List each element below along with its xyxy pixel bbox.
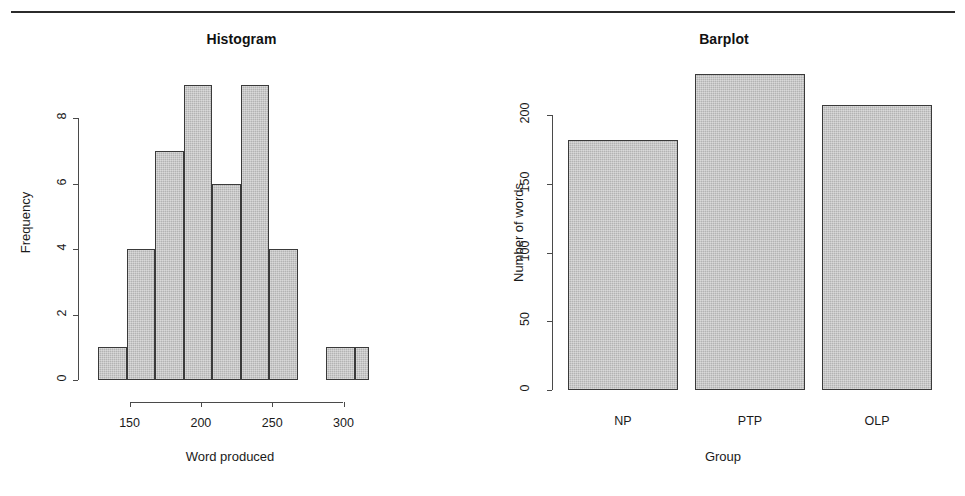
histogram-x-tick [344, 402, 345, 407]
histogram-bar [212, 184, 241, 381]
histogram-y-tick [73, 118, 78, 119]
histogram-x-axis-line [130, 402, 344, 403]
barplot-y-tick [547, 321, 552, 322]
barplot-y-tick [547, 390, 552, 391]
histogram-x-tick [272, 402, 273, 407]
histogram-x-tick [201, 402, 202, 407]
barplot-bar [695, 74, 805, 390]
histogram-bar [127, 249, 156, 380]
barplot-y-tick-label: 200 [518, 91, 532, 135]
histogram-y-tick [73, 315, 78, 316]
histogram-bar [155, 151, 184, 380]
barplot-x-tick-label: OLP [837, 414, 917, 428]
histogram-bar [269, 249, 298, 380]
barplot-y-axis-line [552, 115, 553, 390]
figure-page: Histogram 02468150200250300 Frequency Wo… [0, 0, 965, 496]
histogram-panel: Histogram 02468150200250300 Frequency Wo… [0, 0, 483, 496]
histogram-x-tick-label: 300 [319, 416, 369, 430]
histogram-x-tick [130, 402, 131, 407]
barplot-x-tick-label: NP [583, 414, 663, 428]
histogram-y-tick [73, 380, 78, 381]
barplot-title: Barplot [483, 31, 965, 47]
histogram-y-tick [73, 249, 78, 250]
histogram-y-tick-label: 8 [55, 99, 69, 133]
barplot-y-tick-label: 0 [518, 366, 532, 410]
barplot-bar [568, 140, 678, 390]
barplot-x-tick-label: PTP [710, 414, 790, 428]
histogram-bar [98, 347, 127, 380]
barplot-y-axis-title: Number of words [511, 163, 526, 303]
histogram-y-axis-title: Frequency [18, 163, 33, 283]
histogram-bar [184, 85, 213, 380]
barplot-y-tick [547, 115, 552, 116]
barplot-y-tick-label: 50 [518, 297, 532, 341]
barplot-panel: Barplot 050100150200NPPTPOLP Number of w… [483, 0, 965, 496]
histogram-x-tick-label: 200 [176, 416, 226, 430]
barplot-y-tick [547, 184, 552, 185]
histogram-x-tick-label: 250 [247, 416, 297, 430]
histogram-bar [326, 347, 355, 380]
histogram-y-tick [73, 184, 78, 185]
histogram-y-tick-label: 2 [55, 296, 69, 330]
histogram-y-tick-label: 6 [55, 165, 69, 199]
histogram-y-tick-label: 4 [55, 230, 69, 264]
histogram-y-axis-line [78, 118, 79, 380]
histogram-x-tick-label: 150 [105, 416, 155, 430]
barplot-bar [822, 105, 932, 390]
histogram-y-tick-label: 0 [55, 361, 69, 395]
barplot-y-tick [547, 253, 552, 254]
histogram-title: Histogram [0, 31, 483, 47]
histogram-bar [241, 85, 270, 380]
histogram-bar [355, 347, 369, 380]
barplot-x-axis-title: Group [613, 449, 833, 464]
histogram-x-axis-title: Word produced [120, 449, 340, 464]
